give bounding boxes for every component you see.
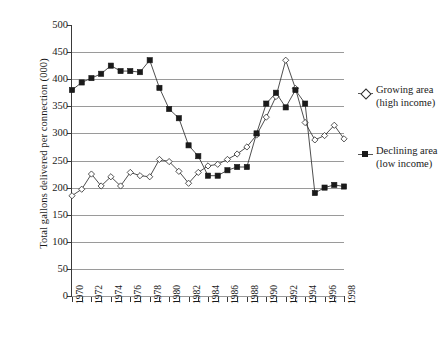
x-tick-label: 1998 [348,285,357,304]
x-tick-mark [227,297,228,302]
x-tick-label: 1982 [193,285,202,304]
x-tick-mark [179,297,180,301]
x-tick-label: 1994 [309,285,318,304]
chart-legend: Growing area (high income) Declining are… [358,84,448,206]
x-tick-mark [295,297,296,301]
x-tick-mark [344,297,345,302]
x-tick-label: 1986 [231,285,240,304]
x-tick-mark [325,297,326,302]
line-chart: Total gallons delivered per connection (… [0,0,448,338]
x-tick-mark [208,297,209,302]
x-tick-mark [101,297,102,301]
x-tick-mark [111,297,112,302]
x-tick-label: 1972 [95,285,104,304]
x-tick-mark [121,297,122,301]
x-tick-label: 1988 [251,285,260,304]
x-tick-mark [305,297,306,302]
x-tick-mark [218,297,219,301]
x-tick-mark [150,297,151,302]
x-tick-mark [286,297,287,302]
x-tick-label: 1980 [173,285,182,304]
x-tick-label: 1990 [270,285,279,304]
x-tick-mark [169,297,170,302]
legend-item-declining-area: Declining area (low income) [358,145,448,170]
x-tick-mark [334,297,335,301]
legend-label-growing-line1: Growing area [376,84,448,97]
x-tick-mark [140,297,141,301]
x-tick-mark [198,297,199,301]
legend-item-growing-area: Growing area (high income) [358,84,448,109]
x-tick-mark [159,297,160,301]
square-marker-icon [358,149,374,159]
x-tick-mark [257,297,258,301]
x-tick-mark [130,297,131,302]
x-tick-mark [276,297,277,301]
diamond-marker-icon [358,88,374,98]
legend-label-declining-line2: (low income) [376,158,448,171]
x-tick-label: 1984 [212,285,221,304]
x-tick-mark [72,297,73,302]
x-tick-label: 1970 [76,285,85,304]
x-tick-label: 1992 [290,285,299,304]
legend-label-growing-line2: (high income) [376,97,448,110]
x-tick-mark [91,297,92,302]
x-tick-label: 1978 [154,285,163,304]
x-tick-label: 1974 [115,285,124,304]
x-tick-mark [266,297,267,302]
x-tick-mark [237,297,238,301]
legend-label-declining-line1: Declining area [376,145,448,158]
x-tick-mark [82,297,83,301]
x-tick-mark [247,297,248,302]
x-tick-label: 1976 [134,285,143,304]
x-tick-label: 1996 [329,285,338,304]
x-tick-mark [315,297,316,301]
x-tick-mark [189,297,190,302]
